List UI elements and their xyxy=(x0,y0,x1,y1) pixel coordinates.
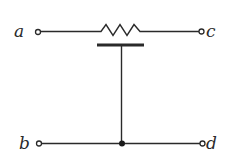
terminal-a-icon xyxy=(36,30,41,35)
terminal-c-icon xyxy=(199,29,204,34)
potentiometer-diagram: a c b d xyxy=(0,0,234,157)
terminal-label-a: a xyxy=(14,21,24,41)
terminal-label-c: c xyxy=(206,21,216,41)
terminal-label-d: d xyxy=(206,133,217,153)
junction-dot xyxy=(119,141,125,147)
wiper-bar xyxy=(97,44,144,47)
terminal-d-icon xyxy=(200,141,205,146)
terminal-b-icon xyxy=(37,141,42,146)
resistor-zigzag xyxy=(97,25,144,36)
terminal-label-b: b xyxy=(19,133,30,153)
